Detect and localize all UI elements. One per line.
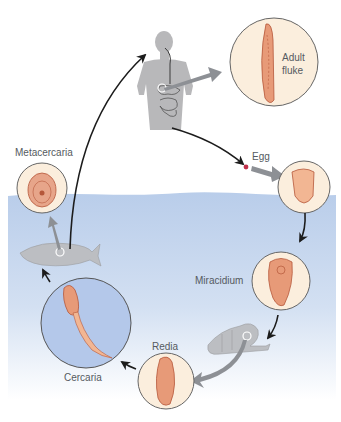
stage-egg: [278, 161, 330, 213]
label-adult-fluke: Adult fluke: [282, 51, 305, 77]
label-redia: Redia: [152, 341, 178, 352]
label-adult-line1: Adult: [282, 51, 305, 64]
label-metacercaria: Metacercaria: [15, 147, 73, 158]
human-host: [137, 31, 193, 130]
label-adult-line2: fluke: [282, 64, 305, 77]
arrow-human-to-egg: [172, 128, 243, 164]
label-cercaria: Cercaria: [64, 372, 102, 383]
stage-miracidium: [252, 252, 310, 310]
stage-cercaria: [41, 278, 131, 368]
label-miracidium: Miracidium: [195, 275, 243, 286]
egg-dot: [244, 165, 249, 170]
life-cycle-diagram: Adult fluke Egg Miracidium Redia Cercari…: [0, 0, 341, 422]
stage-redia: [138, 353, 194, 409]
stage-metacercaria: [17, 163, 67, 213]
label-egg: Egg: [252, 151, 270, 162]
